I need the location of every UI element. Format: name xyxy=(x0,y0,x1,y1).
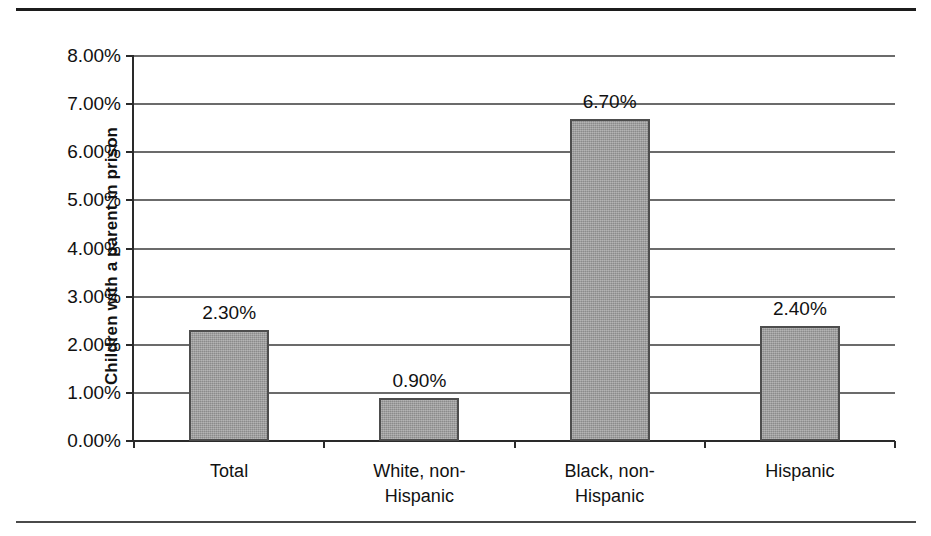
bar xyxy=(189,330,269,441)
y-tick-mark xyxy=(126,344,133,346)
y-tick-mark xyxy=(126,55,133,57)
y-tick-mark xyxy=(126,199,133,201)
y-tick-label: 0.00% xyxy=(67,430,121,452)
bar-value-label: 0.90% xyxy=(392,370,446,392)
y-tick-label: 6.00% xyxy=(67,141,121,163)
y-tick-mark xyxy=(126,296,133,298)
bar xyxy=(760,326,840,442)
x-tick-mark xyxy=(133,441,135,448)
y-tick-label: 4.00% xyxy=(67,238,121,260)
y-tick-mark xyxy=(126,151,133,153)
gridline-500 xyxy=(134,199,895,201)
figure-container: Children with a parent in prison 0.00%1.… xyxy=(0,0,931,536)
top-divider-rule xyxy=(16,8,916,11)
gridline-700 xyxy=(134,103,895,105)
bar xyxy=(570,119,650,441)
x-tick-mark xyxy=(323,441,325,448)
x-category-label: White, non- Hispanic xyxy=(373,459,465,509)
y-tick-mark xyxy=(126,440,133,442)
y-tick-label: 3.00% xyxy=(67,286,121,308)
bar xyxy=(379,398,459,441)
x-tick-mark xyxy=(894,441,896,448)
x-tick-mark xyxy=(704,441,706,448)
plot-area: 0.00%1.00%2.00%3.00%4.00%5.00%6.00%7.00%… xyxy=(134,56,895,441)
x-category-label: Total xyxy=(210,459,248,484)
y-tick-label: 1.00% xyxy=(67,382,121,404)
x-tick-mark xyxy=(514,441,516,448)
y-tick-mark xyxy=(126,103,133,105)
y-tick-mark xyxy=(126,248,133,250)
bar-value-label: 2.30% xyxy=(202,302,256,324)
bottom-divider-rule xyxy=(16,521,916,523)
x-category-label: Hispanic xyxy=(765,459,834,484)
bar-value-label: 2.40% xyxy=(773,298,827,320)
gridline-400 xyxy=(134,248,895,250)
y-tick-label: 8.00% xyxy=(67,45,121,67)
y-tick-label: 5.00% xyxy=(67,189,121,211)
bar-value-label: 6.70% xyxy=(583,91,637,113)
gridline-600 xyxy=(134,151,895,153)
y-tick-mark xyxy=(126,392,133,394)
gridline-800 xyxy=(134,55,895,57)
y-tick-label: 7.00% xyxy=(67,93,121,115)
y-tick-label: 2.00% xyxy=(67,334,121,356)
x-category-label: Black, non- Hispanic xyxy=(565,459,655,509)
